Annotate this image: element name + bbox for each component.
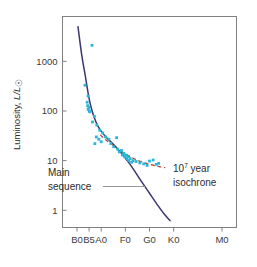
hr-diagram-figure: 1000100101 B0B5A0F0G0K0M0 Luminosity, L/… bbox=[0, 0, 257, 267]
sun-symbol-icon: ☉ bbox=[14, 79, 24, 87]
data-point bbox=[130, 161, 133, 164]
data-point bbox=[108, 138, 111, 141]
main-sequence-label-line1: Main bbox=[48, 167, 70, 178]
y-axis-title: Luminosity, L/L☉ bbox=[11, 79, 24, 150]
x-tick-label: B5 bbox=[83, 234, 95, 245]
x-axis-tick-labels: B0B5A0F0G0K0M0 bbox=[71, 234, 228, 245]
data-point bbox=[86, 101, 89, 104]
data-point bbox=[100, 140, 103, 143]
svg-text:107 year: 107 year bbox=[173, 162, 211, 174]
data-point bbox=[101, 132, 104, 135]
data-point bbox=[112, 145, 115, 148]
y-tick-label: 100 bbox=[42, 105, 58, 116]
data-point bbox=[127, 159, 130, 162]
data-point bbox=[91, 44, 94, 47]
y-axis-title-prefix: Luminosity, bbox=[11, 100, 22, 150]
data-point bbox=[95, 124, 98, 127]
isochrone-label-line2: isochrone bbox=[173, 177, 217, 188]
x-tick-label: B0 bbox=[71, 234, 83, 245]
data-point bbox=[109, 142, 112, 145]
chart-canvas: 1000100101 B0B5A0F0G0K0M0 Luminosity, L/… bbox=[0, 0, 257, 267]
svg-text:Luminosity, L/L☉: Luminosity, L/L☉ bbox=[11, 79, 24, 150]
data-point bbox=[155, 163, 158, 166]
data-point bbox=[142, 162, 145, 165]
x-tick-label: G0 bbox=[143, 234, 156, 245]
data-point bbox=[135, 160, 138, 163]
main-sequence-label-line2: sequence bbox=[48, 181, 92, 192]
data-point bbox=[88, 110, 91, 113]
data-point bbox=[146, 164, 149, 167]
x-axis-ticks bbox=[77, 228, 222, 232]
x-tick-label: F0 bbox=[120, 234, 131, 245]
y-tick-label: 10 bbox=[47, 155, 58, 166]
data-point bbox=[91, 121, 94, 124]
data-point bbox=[93, 142, 96, 145]
data-point bbox=[84, 84, 87, 87]
data-point bbox=[118, 150, 121, 153]
x-tick-label: A0 bbox=[95, 234, 107, 245]
data-point bbox=[95, 136, 98, 139]
data-point bbox=[115, 136, 118, 139]
y-tick-label: 1 bbox=[52, 205, 57, 216]
y-axis-title-symbol: L/L bbox=[11, 87, 22, 100]
data-point bbox=[152, 159, 155, 162]
data-point bbox=[157, 162, 160, 165]
data-point bbox=[148, 160, 151, 163]
data-point bbox=[138, 162, 141, 165]
data-point bbox=[87, 95, 90, 98]
data-point bbox=[93, 115, 96, 118]
data-point bbox=[121, 154, 124, 157]
x-tick-label: K0 bbox=[168, 234, 180, 245]
data-point bbox=[97, 138, 100, 141]
data-point bbox=[116, 148, 119, 151]
data-point bbox=[104, 136, 107, 139]
data-point bbox=[98, 129, 101, 132]
plot-frame bbox=[63, 17, 237, 228]
isochrone-label-suffix: year bbox=[188, 163, 211, 174]
y-tick-label: 1000 bbox=[36, 56, 57, 67]
isochrone-label-base: 10 bbox=[173, 163, 185, 174]
x-tick-label: M0 bbox=[215, 234, 228, 245]
